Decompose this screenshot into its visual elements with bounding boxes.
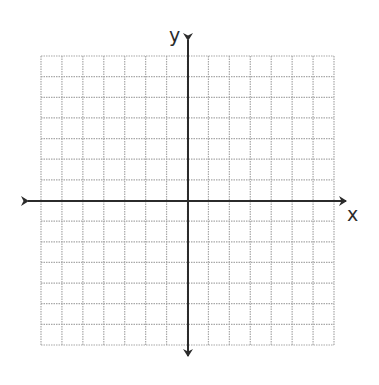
- y-axis-label: y: [169, 26, 180, 45]
- coordinate-plane: [0, 0, 379, 385]
- x-axis-label: x: [347, 205, 358, 224]
